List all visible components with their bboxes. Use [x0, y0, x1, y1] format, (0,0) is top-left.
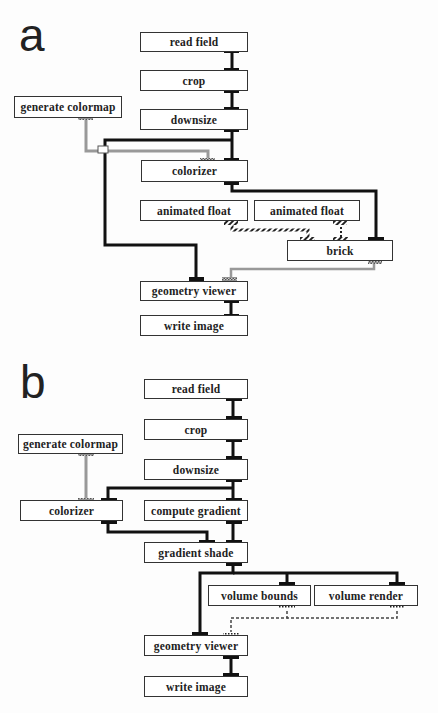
node-write-image-a[interactable]: write image	[140, 315, 248, 336]
dataflow-diagram: a read field crop downsize generate colo…	[0, 0, 438, 713]
node-geometry-viewer-a[interactable]: geometry viewer	[140, 281, 248, 301]
node-downsize-b[interactable]: downsize	[144, 459, 248, 480]
node-write-image-b[interactable]: write image	[144, 676, 248, 697]
node-read-field-a[interactable]: read field	[140, 32, 248, 52]
node-volume-render-b[interactable]: volume render	[314, 585, 418, 606]
node-colorizer-a[interactable]: colorizer	[141, 160, 248, 182]
node-read-field-b[interactable]: read field	[144, 379, 248, 399]
node-volume-bounds-b[interactable]: volume bounds	[208, 585, 311, 606]
node-animated-float-2-a[interactable]: animated float	[254, 200, 360, 221]
panel-label-a: a	[19, 12, 45, 58]
node-crop-a[interactable]: crop	[140, 70, 248, 91]
node-generate-colormap-a[interactable]: generate colormap	[14, 96, 122, 118]
node-crop-b[interactable]: crop	[144, 419, 248, 440]
node-animated-float-1-a[interactable]: animated float	[140, 200, 248, 221]
node-downsize-a[interactable]: downsize	[140, 109, 248, 130]
node-colorizer-b[interactable]: colorizer	[20, 500, 123, 521]
node-geometry-viewer-b[interactable]: geometry viewer	[144, 635, 248, 656]
node-gradient-shade-b[interactable]: gradient shade	[144, 542, 248, 563]
node-generate-colormap-b[interactable]: generate colormap	[18, 434, 123, 454]
node-brick-a[interactable]: brick	[287, 240, 393, 261]
panel-label-b: b	[20, 359, 46, 405]
node-compute-gradient-b[interactable]: compute gradient	[144, 500, 248, 521]
